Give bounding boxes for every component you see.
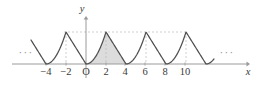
x-tick-label: 10 bbox=[180, 67, 191, 78]
x-tick-label: 6 bbox=[142, 67, 147, 78]
x-tick-label: −4 bbox=[40, 67, 51, 78]
x-tick-label: −2 bbox=[60, 67, 71, 78]
y-axis-label: y bbox=[80, 4, 85, 15]
periodic-curve bbox=[31, 32, 214, 64]
x-tick-label: 4 bbox=[122, 67, 127, 78]
x-tick-label: 8 bbox=[162, 67, 167, 78]
x-tick-label: 2 bbox=[103, 67, 108, 78]
y-axis-arrowhead bbox=[84, 16, 89, 20]
ellipsis-right: ··· bbox=[219, 47, 234, 58]
x-axis-label: x bbox=[246, 67, 251, 78]
x-tick-label: O bbox=[82, 67, 90, 78]
math-figure: −4−2O246810 x y ··· ··· bbox=[0, 0, 265, 93]
ellipsis-left: ··· bbox=[18, 47, 33, 58]
function-curve bbox=[31, 32, 214, 64]
